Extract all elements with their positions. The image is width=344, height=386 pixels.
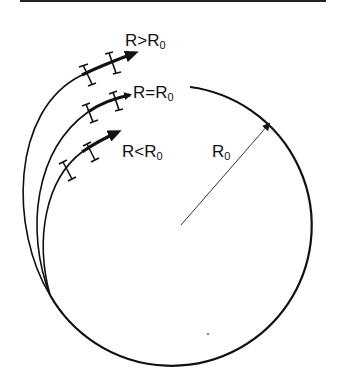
tick-marks-equal <box>82 91 123 123</box>
orbit-diagram: R>R0 R=R0 R<R0 R0 <box>0 0 344 386</box>
label-radius: R0 <box>212 142 230 162</box>
circle-r0 <box>50 87 312 366</box>
radius-arrow <box>181 124 269 225</box>
trajectory-greater <box>23 75 82 295</box>
tick-marks-greater <box>79 52 121 86</box>
label-greater: R>R0 <box>125 31 166 51</box>
label-equal: R=R0 <box>133 83 174 103</box>
label-less: R<R0 <box>122 142 163 162</box>
speck <box>207 333 209 335</box>
tick-marks-less <box>59 142 99 181</box>
trajectory-less <box>43 152 82 295</box>
